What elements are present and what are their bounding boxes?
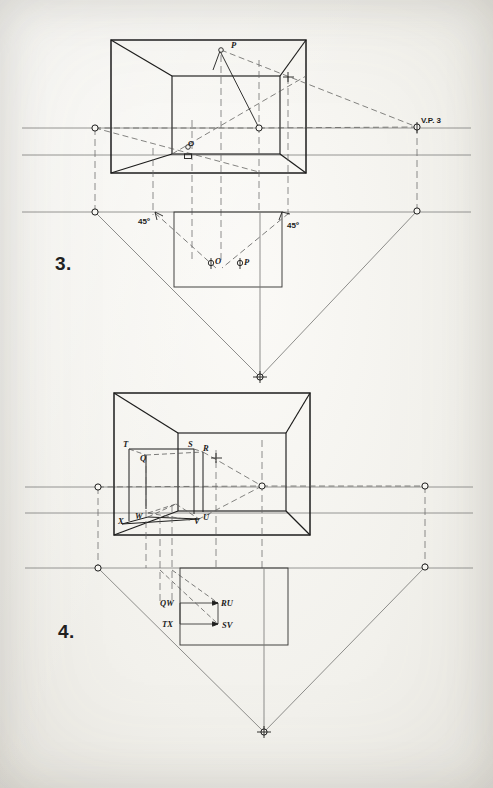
fig3-bottom-cone — [95, 211, 417, 377]
fig4-outer-rect — [114, 393, 310, 535]
fig4-edge-tl — [114, 393, 178, 433]
label-vertex-s: S — [188, 439, 193, 449]
label-vertex-u: U — [203, 512, 209, 522]
fig4-plan-prism — [180, 603, 218, 624]
label-vanishing-point-3: V.P. 3 — [421, 116, 441, 125]
label-vertex-r: R — [203, 443, 209, 453]
fig3-ray-p-short — [213, 51, 220, 70]
fig4-plan-projectors — [160, 570, 218, 624]
label-plan-ru: RU — [221, 598, 233, 608]
fig4-vp-markers — [95, 483, 428, 735]
fig3-ray45-right — [222, 213, 289, 268]
label-plan-tx: TX — [162, 619, 173, 629]
fig3-receding-edges — [111, 40, 306, 173]
fig4-cone-left — [98, 568, 264, 732]
label-angle-right-45: 45º — [287, 221, 299, 230]
fig3-edge-tl — [111, 40, 172, 76]
fig3-vp-left-upper-marker — [92, 125, 98, 131]
fig4-arrow-ru — [213, 601, 219, 605]
label-point-p-plan: P — [244, 257, 249, 267]
fig3-point-p-pictorial-marker — [219, 48, 224, 53]
fig3-outer-box — [111, 40, 306, 173]
label-point-o-plan: O — [215, 256, 221, 266]
fig3-plan-45-rays — [155, 213, 289, 268]
fig3-vp-markers — [92, 48, 420, 380]
fig3-cone-left — [95, 212, 260, 377]
fig4-plan-diag2 — [160, 570, 218, 624]
fig4-hidden-S-R — [194, 449, 203, 452]
fig4-plan-rect — [180, 568, 288, 645]
fig3-reference-lines — [22, 128, 471, 212]
label-plan-sv: SV — [222, 620, 232, 630]
figure-4-group — [25, 393, 473, 738]
figure-3-group — [22, 40, 471, 383]
fig4-ray-R-to-vpc — [203, 452, 262, 486]
fig3-edge-br — [280, 154, 306, 173]
fig3-arrow-left — [155, 212, 163, 220]
fig3-arrow-right — [279, 212, 290, 220]
perspective-drawing-canvas — [0, 0, 493, 788]
figure-4-number: 4. — [58, 621, 75, 643]
fig3-vp-left-ground-marker — [92, 209, 98, 215]
fig3-diag-vpleft-down — [95, 128, 259, 172]
label-plan-qw: QW — [160, 598, 174, 608]
fig4-receding-edges — [114, 393, 310, 535]
fig4-vp-right-upper-marker — [422, 483, 428, 489]
label-angle-left-45: 45º — [138, 217, 150, 226]
drawing-page: 3. 4. P O V.P. 3 45º 45º O P T Q S R X W… — [0, 0, 493, 788]
fig4-edge-br — [286, 511, 310, 535]
fig4-edge-tr — [286, 393, 310, 433]
fig3-vertical-projectors — [95, 55, 417, 264]
fig4-vp-left-ground-marker — [95, 565, 101, 571]
figure-3-number: 3. — [55, 253, 72, 275]
label-vertex-q: Q — [140, 453, 146, 463]
fig4-vp-left-upper-marker — [95, 484, 101, 490]
fig3-ray-p-to-center — [220, 51, 259, 128]
fig3-plan-rect — [174, 212, 282, 287]
label-vertex-t: T — [123, 439, 128, 449]
fig4-outer-box — [114, 393, 310, 535]
fig4-vp-right-ground-marker — [422, 564, 428, 570]
fig4-reference-lines — [25, 487, 473, 568]
label-vertex-v: V — [194, 516, 200, 526]
label-point-p-pictorial: P — [231, 40, 236, 50]
fig3-tick-marks — [211, 72, 417, 383]
fig4-plan-diag1 — [172, 570, 218, 603]
label-point-o-pictorial: O — [188, 139, 194, 148]
fig3-plan-outline — [174, 212, 282, 287]
fig3-plan-45-arrowheads — [155, 212, 290, 220]
fig3-edge-tr — [280, 40, 306, 76]
fig4-bottom-cone — [98, 567, 425, 732]
fig3-vp-right-ground-marker — [414, 208, 420, 214]
fig3-outer-rect — [111, 40, 306, 173]
fig3-edge-bl — [111, 154, 172, 173]
fig4-vp-center-marker — [259, 483, 265, 489]
fig3-ray45-left — [155, 213, 216, 268]
label-vertex-x: X — [118, 516, 124, 526]
fig3-diag-p-to-vp3 — [221, 50, 417, 127]
fig3-cone-right — [260, 211, 417, 377]
label-vertex-w: W — [135, 511, 143, 521]
fig4-plan-arrowheads — [213, 601, 219, 626]
fig4-plan-outline — [180, 568, 288, 645]
fig3-vp-center-marker — [256, 125, 262, 131]
fig4-arrow-sv — [213, 622, 219, 626]
